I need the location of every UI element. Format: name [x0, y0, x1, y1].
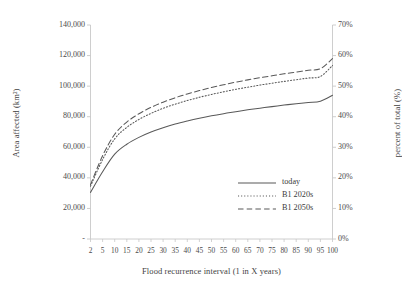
legend-item-label: B1 2050s — [282, 204, 313, 212]
legend-line-swatch — [237, 178, 277, 188]
legend-item: B1 2020s — [237, 189, 313, 202]
legend-item-label: B1 2020s — [282, 191, 313, 199]
series-line-b1-2050s — [91, 59, 333, 185]
legend-item-label: today — [282, 178, 300, 186]
legend-item: B1 2050s — [237, 202, 313, 215]
legend-line-swatch — [237, 191, 277, 201]
series-lines — [91, 59, 333, 193]
chart-legend: todayB1 2020sB1 2050s — [237, 176, 313, 215]
legend-line-swatch — [237, 204, 277, 214]
legend-item: today — [237, 176, 313, 189]
series-line-b1-2020s — [91, 66, 333, 187]
